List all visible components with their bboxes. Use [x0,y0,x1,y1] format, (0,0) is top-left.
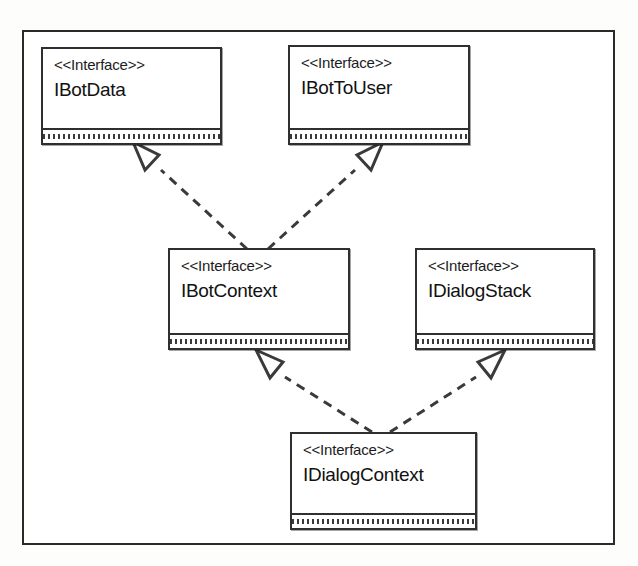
name-compartment: <<Interface>> IBotToUser [290,47,468,128]
stereotype-label: <<Interface>> [301,54,457,73]
class-name-label: IBotToUser [301,76,457,101]
uml-class-ibottouser[interactable]: <<Interface>> IBotToUser [288,45,470,145]
class-name-label: IDialogContext [303,463,464,488]
uml-class-ibotcontext[interactable]: <<Interface>> IBotContext [168,248,350,350]
class-name-label: IBotData [54,78,209,103]
members-compartment [417,333,593,348]
uml-class-idialogstack[interactable]: <<Interface>> IDialogStack [415,248,595,350]
stereotype-label: <<Interface>> [54,56,209,75]
members-compartment [290,128,468,143]
name-compartment: <<Interface>> IBotContext [170,250,348,333]
uml-class-idialogcontext[interactable]: <<Interface>> IDialogContext [290,432,477,530]
name-compartment: <<Interface>> IBotData [43,49,220,128]
uml-diagram-canvas: <<Interface>> IBotData <<Interface>> IBo… [0,0,638,566]
class-name-label: IBotContext [181,279,337,304]
members-compartment [170,333,348,348]
stereotype-label: <<Interface>> [303,441,464,460]
class-name-label: IDialogStack [428,279,582,304]
members-compartment [292,513,475,528]
members-compartment [43,128,220,143]
stereotype-label: <<Interface>> [428,257,582,276]
stereotype-label: <<Interface>> [181,257,337,276]
name-compartment: <<Interface>> IDialogStack [417,250,593,333]
uml-class-ibotdata[interactable]: <<Interface>> IBotData [41,47,222,145]
name-compartment: <<Interface>> IDialogContext [292,434,475,513]
